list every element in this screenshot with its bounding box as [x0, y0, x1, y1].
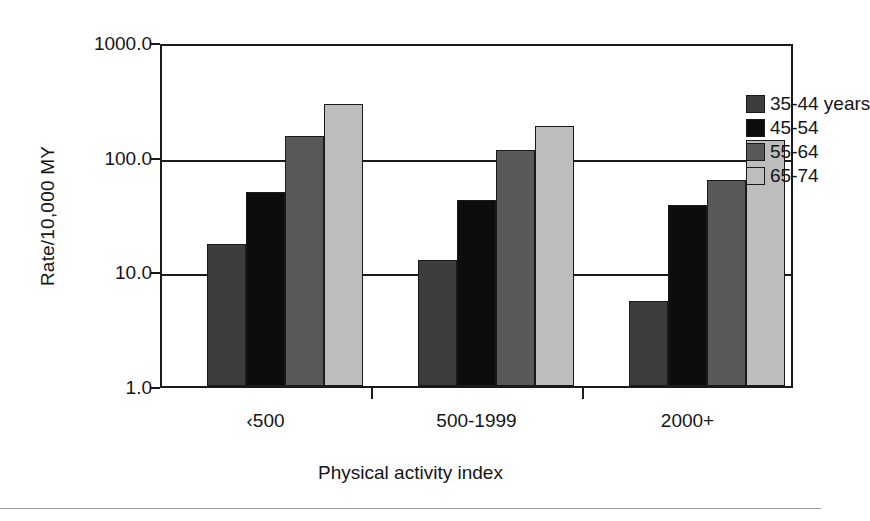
legend-item-1[interactable]: 45-54: [746, 116, 870, 139]
legend-label-3: 65-74: [770, 166, 819, 185]
legend-item-2[interactable]: 55-64: [746, 140, 870, 163]
bar-500-1999-65-74: [535, 126, 574, 386]
legend-swatch-icon-1: [746, 119, 765, 137]
y-tick-label-10.0: 10.0: [42, 262, 152, 284]
bar-500-1999-45-54: [457, 200, 496, 386]
x-tick-mark-1: [371, 388, 373, 399]
legend-label-2: 55-64: [770, 142, 819, 161]
y-tick-mark-1.0: [151, 387, 160, 389]
legend-label-1: 45-54: [770, 118, 819, 137]
y-tick-mark-1000.0: [151, 43, 160, 45]
x-axis-title: Physical activity index: [0, 462, 821, 484]
legend-swatch-icon-0: [746, 95, 765, 113]
legend-swatch-icon-3: [746, 167, 765, 185]
x-tick-label-1: 500-1999: [377, 410, 577, 432]
x-tick-label-0: ‹500: [166, 410, 366, 432]
bar-‹500-65-74: [324, 104, 363, 386]
y-tick-mark-100.0: [151, 158, 160, 160]
y-tick-label-1.0: 1.0: [42, 377, 152, 399]
bar-500-1999-55-64: [496, 150, 535, 386]
y-tick-mark-10.0: [151, 272, 160, 274]
legend: 35-44 years45-5455-6465-74: [746, 92, 870, 187]
legend-item-3[interactable]: 65-74: [746, 164, 870, 187]
bar-2000+-45-54: [668, 205, 707, 386]
bar-2000+-35-44 years: [629, 301, 668, 386]
y-axis-title: Rate/10,000 MY: [37, 106, 59, 326]
x-tick-label-2: 2000+: [588, 410, 788, 432]
plot-area: 35-44 years45-5455-6465-74: [160, 44, 793, 388]
bar-500-1999-35-44 years: [418, 260, 457, 386]
gridline-100: [162, 160, 791, 162]
legend-swatch-icon-2: [746, 143, 765, 161]
bar-2000+-55-64: [707, 180, 746, 386]
y-tick-label-1000.0: 1000.0: [42, 33, 152, 55]
legend-item-0[interactable]: 35-44 years: [746, 92, 870, 115]
y-tick-label-100.0: 100.0: [42, 148, 152, 170]
bar-‹500-35-44 years: [207, 244, 246, 386]
page-divider-rule: [0, 508, 821, 509]
bar-‹500-45-54: [246, 192, 285, 386]
legend-label-0: 35-44 years: [770, 94, 870, 113]
x-tick-mark-2: [582, 388, 584, 399]
bar-‹500-55-64: [285, 136, 324, 386]
